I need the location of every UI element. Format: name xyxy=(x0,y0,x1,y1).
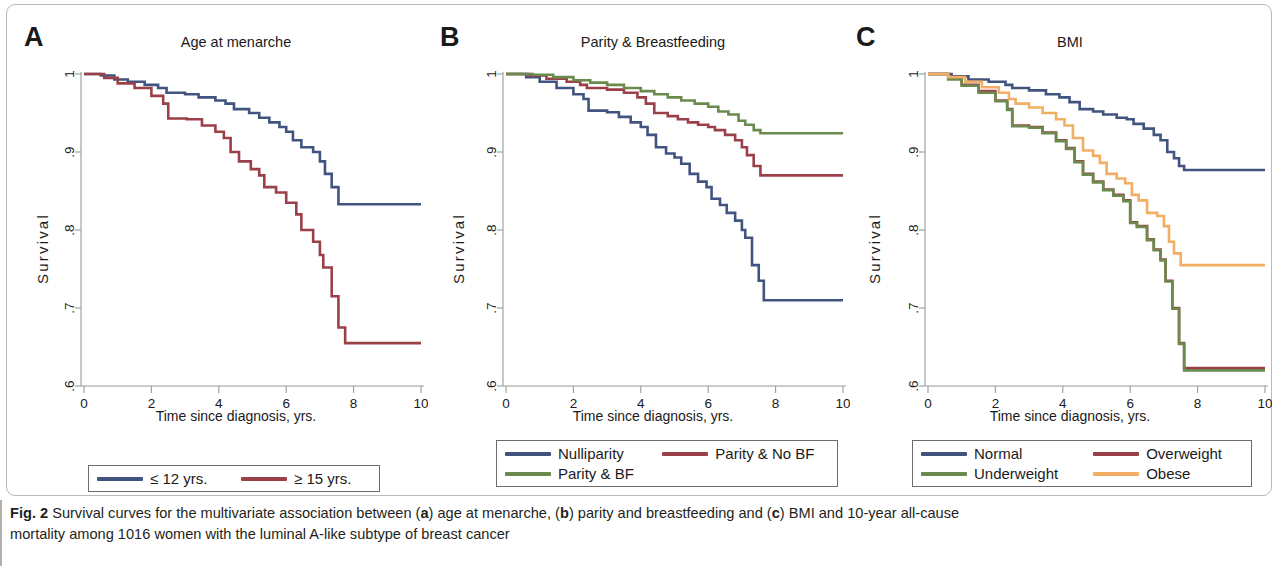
legend-item-label: Normal xyxy=(974,445,1022,462)
panel-c: C BMI 1.9.8.7.60246810 Time since diagno… xyxy=(850,4,1272,496)
legend-item-label: Underweight xyxy=(974,465,1058,482)
legend-line-swatch xyxy=(1093,452,1139,456)
legend-item-label: ≤ 12 yrs. xyxy=(150,470,207,487)
panel-a: A Age at menarche 1.9.8.7.60246810 Time … xyxy=(6,4,428,496)
y-tick-label: .9 xyxy=(906,146,921,157)
caption-bold-b: b xyxy=(560,505,569,521)
panel-c-legend: NormalOverweightUnderweightObese xyxy=(912,440,1252,487)
figure-caption: Fig. 2 Survival curves for the multivari… xyxy=(10,503,1268,545)
y-tick-label: .9 xyxy=(484,146,499,157)
caption-text-4: ) BMI and 10-year all-cause xyxy=(780,505,959,521)
panel-a-legend: ≤ 12 yrs.≥ 15 yrs. xyxy=(88,465,380,492)
y-tick-label: .7 xyxy=(484,302,499,313)
caption-text-2: ) age at menarche, ( xyxy=(429,505,560,521)
x-tick-label: 10 xyxy=(413,396,428,411)
legend-item[interactable]: Parity & BF xyxy=(505,465,648,482)
legend-line-swatch xyxy=(662,452,708,456)
survival-curve xyxy=(84,74,421,204)
panel-a-yaxis-label: Survival xyxy=(34,213,51,284)
legend-line-swatch xyxy=(921,452,967,456)
y-tick-label: .6 xyxy=(62,380,77,391)
survival-curve xyxy=(506,74,843,300)
legend-item[interactable]: Overweight xyxy=(1093,445,1243,462)
legend-line-swatch xyxy=(1093,472,1139,476)
legend-item-label: Overweight xyxy=(1146,445,1222,462)
legend-line-swatch xyxy=(241,477,287,481)
y-tick-label: .8 xyxy=(62,224,77,235)
panel-b-legend: NulliparityParity & No BFParity & BF xyxy=(496,440,838,487)
legend-item-label: Parity & BF xyxy=(558,465,634,482)
caption-bold-c: c xyxy=(772,505,780,521)
caption-text-3: ) parity and breastfeeding and ( xyxy=(569,505,772,521)
legend-line-swatch xyxy=(97,477,143,481)
legend-line-swatch xyxy=(505,452,551,456)
y-tick-label: .6 xyxy=(906,380,921,391)
caption-figure-number: Fig. 2 xyxy=(10,505,48,521)
legend-item-label: Obese xyxy=(1146,465,1190,482)
caption-left-rule xyxy=(0,500,2,566)
survival-curve xyxy=(928,74,1265,368)
survival-curve xyxy=(928,74,1265,370)
legend-item[interactable]: ≤ 12 yrs. xyxy=(97,470,227,487)
x-tick-label: 10 xyxy=(1257,396,1272,411)
panel-c-xaxis-label: Time since diagnosis, yrs. xyxy=(895,408,1245,424)
panel-c-plot: 1.9.8.7.60246810 xyxy=(850,4,1272,424)
panel-b: B Parity & Breastfeeding 1.9.8.7.6024681… xyxy=(428,4,850,496)
legend-item-label: Nulliparity xyxy=(558,445,624,462)
figure-2-root: A Age at menarche 1.9.8.7.60246810 Time … xyxy=(0,0,1278,566)
panel-b-yaxis-label: Survival xyxy=(450,213,467,284)
legend-item[interactable]: Nulliparity xyxy=(505,445,648,462)
survival-curve xyxy=(84,74,421,343)
legend-item-label: Parity & No BF xyxy=(715,445,814,462)
panel-a-plot: 1.9.8.7.60246810 xyxy=(6,4,428,424)
x-tick-label: 10 xyxy=(835,396,850,411)
y-tick-label: .6 xyxy=(484,380,499,391)
y-tick-label: .8 xyxy=(906,224,921,235)
legend-line-swatch xyxy=(921,472,967,476)
y-tick-label: .7 xyxy=(62,302,77,313)
caption-line-2: mortality among 1016 women with the lumi… xyxy=(10,524,1268,545)
legend-item[interactable]: Parity & No BF xyxy=(662,445,829,462)
y-tick-label: .7 xyxy=(906,302,921,313)
caption-text-1: Survival curves for the multivariate ass… xyxy=(48,505,420,521)
caption-bold-a: a xyxy=(420,505,428,521)
legend-item[interactable]: ≥ 15 yrs. xyxy=(241,470,371,487)
panels-container: A Age at menarche 1.9.8.7.60246810 Time … xyxy=(6,4,1272,496)
y-tick-label: 1 xyxy=(62,70,77,78)
panel-a-xaxis-label: Time since diagnosis, yrs. xyxy=(61,408,411,424)
legend-line-swatch xyxy=(505,472,551,476)
legend-item[interactable]: Normal xyxy=(921,445,1079,462)
panel-b-plot: 1.9.8.7.60246810 xyxy=(428,4,850,424)
y-tick-label: 1 xyxy=(484,70,499,78)
legend-item[interactable]: Underweight xyxy=(921,465,1079,482)
panel-c-yaxis-label: Survival xyxy=(866,213,883,284)
y-tick-label: .8 xyxy=(484,224,499,235)
legend-item[interactable]: Obese xyxy=(1093,465,1243,482)
legend-item-label: ≥ 15 yrs. xyxy=(294,470,351,487)
y-tick-label: 1 xyxy=(906,70,921,78)
panel-b-xaxis-label: Time since diagnosis, yrs. xyxy=(478,408,828,424)
y-tick-label: .9 xyxy=(62,146,77,157)
